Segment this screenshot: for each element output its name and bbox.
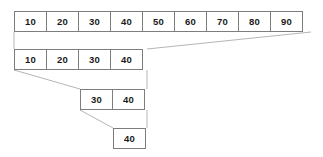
array-cell: 30	[78, 11, 111, 32]
array-row-second-quarter: 3040	[80, 89, 145, 110]
array-cell: 30	[78, 49, 111, 70]
array-cell: 10	[14, 11, 47, 32]
array-cell: 40	[110, 11, 143, 32]
array-cell: 70	[206, 11, 239, 32]
array-cell: 40	[110, 49, 143, 70]
array-cell: 60	[174, 11, 207, 32]
connector-line	[80, 110, 113, 128]
diagram-canvas: 102030405060708090 10203040 3040 40	[0, 0, 323, 157]
array-cell: 40	[112, 89, 145, 110]
connector-line	[147, 32, 311, 49]
array-cell: 90	[270, 11, 303, 32]
array-cell: 20	[46, 49, 79, 70]
connector-line	[14, 70, 80, 89]
array-cell: 40	[113, 128, 146, 149]
array-cell: 80	[238, 11, 271, 32]
array-row-single-element: 40	[113, 128, 146, 149]
array-cell: 20	[46, 11, 79, 32]
array-row-full-array: 102030405060708090	[14, 11, 303, 32]
array-cell: 30	[80, 89, 113, 110]
array-cell: 50	[142, 11, 175, 32]
array-row-first-half: 10203040	[14, 49, 143, 70]
array-cell: 10	[14, 49, 47, 70]
